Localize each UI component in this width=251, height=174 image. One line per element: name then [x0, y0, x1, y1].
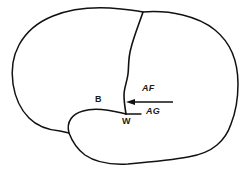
label-angular-gyrus: AG	[146, 107, 160, 116]
label-broca-area: B	[95, 95, 102, 104]
brain-diagram-figure: B W AF AG	[0, 0, 251, 174]
label-wernicke-area: W	[122, 117, 131, 126]
label-arcuate-fasciculus: AF	[142, 84, 154, 93]
temporal-lobe-outline	[68, 109, 126, 133]
central-sulcus-line	[124, 12, 143, 114]
arcuate-fasciculus-arrow	[126, 99, 173, 105]
arrow-head-icon	[126, 99, 135, 105]
brain-diagram-svg	[0, 0, 251, 174]
